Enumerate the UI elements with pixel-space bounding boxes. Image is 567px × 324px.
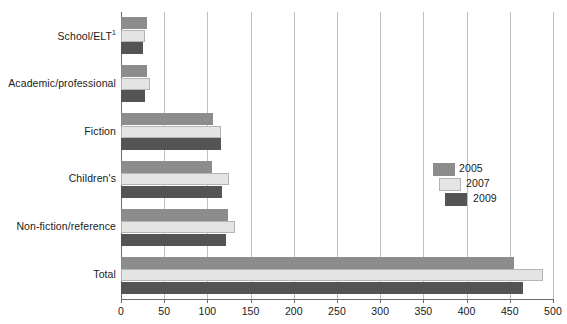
x-tick-50 — [164, 299, 165, 303]
x-tick-500 — [553, 299, 554, 303]
x-tick-label-150: 150 — [242, 305, 260, 317]
bar — [121, 17, 147, 29]
x-tick-label-50: 50 — [158, 305, 170, 317]
x-tick-400 — [467, 299, 468, 303]
y-axis-label: Children's — [69, 172, 116, 184]
bar — [121, 161, 212, 173]
bar — [121, 90, 145, 102]
x-tick-label-400: 400 — [458, 305, 476, 317]
bar — [121, 269, 543, 281]
bar — [121, 257, 514, 269]
x-tick-0 — [121, 299, 122, 303]
bar-group — [121, 257, 553, 294]
bar-group — [121, 17, 553, 54]
bar-chart: 050100150200250300350400450500 School/EL… — [0, 0, 567, 324]
x-tick-label-200: 200 — [285, 305, 303, 317]
plot-area — [121, 12, 553, 299]
bar — [121, 65, 147, 77]
x-tick-100 — [207, 299, 208, 303]
y-axis-label: Total — [93, 268, 116, 280]
x-tick-label-350: 350 — [414, 305, 432, 317]
bar — [121, 78, 150, 90]
bar — [121, 138, 221, 150]
bar — [121, 282, 523, 294]
bar — [121, 234, 226, 246]
bar — [121, 113, 213, 125]
x-tick-label-0: 0 — [118, 305, 124, 317]
x-tick-150 — [251, 299, 252, 303]
x-tick-label-300: 300 — [371, 305, 389, 317]
y-axis-label: School/ELT1 — [58, 29, 117, 42]
legend-label-2005: 2005 — [459, 162, 483, 174]
x-tick-label-250: 250 — [328, 305, 346, 317]
bar — [121, 173, 229, 185]
bar-group — [121, 65, 553, 102]
x-tick-300 — [380, 299, 381, 303]
bar-group — [121, 113, 553, 150]
x-tick-label-500: 500 — [544, 305, 562, 317]
y-axis-label: Academic/professional — [8, 77, 116, 89]
legend-label-2007: 2007 — [466, 177, 490, 189]
bar-group — [121, 209, 553, 246]
x-tick-350 — [423, 299, 424, 303]
x-tick-450 — [510, 299, 511, 303]
x-tick-label-450: 450 — [501, 305, 519, 317]
legend-label-2009: 2009 — [473, 192, 497, 204]
bar — [121, 126, 221, 138]
legend-swatch-icon-2009 — [445, 193, 467, 206]
gridline-500 — [553, 12, 554, 299]
bar — [121, 221, 235, 233]
x-tick-250 — [337, 299, 338, 303]
bar — [121, 30, 145, 42]
bar — [121, 186, 222, 198]
bar — [121, 209, 228, 221]
bar — [121, 42, 143, 54]
x-tick-label-100: 100 — [198, 305, 216, 317]
y-axis-label: Non-fiction/reference — [16, 220, 116, 232]
legend-swatch-icon-2007 — [439, 178, 461, 191]
y-axis-label: Fiction — [84, 125, 116, 137]
x-tick-200 — [294, 299, 295, 303]
legend-swatch-icon-2005 — [433, 163, 455, 176]
